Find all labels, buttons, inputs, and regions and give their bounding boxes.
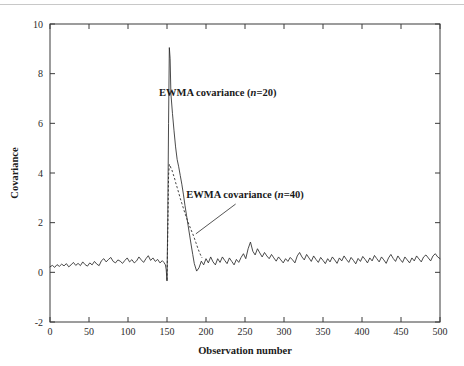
x-axis-title: Observation number — [198, 345, 292, 356]
series-line-n40 — [167, 164, 202, 279]
y-tick-label: 8 — [38, 68, 43, 79]
x-tick-label: 150 — [160, 326, 175, 337]
x-tick-label: 100 — [121, 326, 136, 337]
y-tick-label: 6 — [38, 118, 43, 129]
x-tick-label: 300 — [277, 326, 292, 337]
page-top-rule — [0, 4, 464, 5]
x-tick-label: 200 — [199, 326, 214, 337]
axes-group: 050100150200250300350400450500-20246810 — [33, 19, 448, 338]
y-tick-label: 10 — [33, 19, 43, 30]
x-tick-label: 450 — [394, 326, 409, 337]
annotation-leader-line — [196, 204, 236, 234]
annotation-suffix: =20) — [256, 87, 276, 99]
series-line-n20 — [50, 48, 440, 281]
x-tick-label: 400 — [355, 326, 370, 337]
annotation-suffix: =40) — [284, 189, 304, 201]
x-tick-label: 250 — [238, 326, 253, 337]
annot-n40: EWMA covariance (n=40) — [186, 189, 304, 201]
plot-frame — [50, 24, 440, 322]
figure-container: 050100150200250300350400450500-20246810 … — [0, 0, 464, 366]
x-tick-label: 0 — [48, 326, 53, 337]
y-tick-label: 0 — [38, 267, 43, 278]
y-tick-label: -2 — [35, 317, 43, 328]
y-axis-title: Covariance — [9, 147, 20, 199]
axis-labels-group: Observation numberCovariance — [9, 147, 292, 356]
y-tick-label: 4 — [38, 168, 43, 179]
annotation-prefix: EWMA covariance ( — [186, 189, 278, 201]
x-tick-label: 50 — [84, 326, 94, 337]
annotation-prefix: EWMA covariance ( — [159, 87, 251, 99]
x-tick-label: 350 — [316, 326, 331, 337]
annot-n20: EWMA covariance (n=20) — [159, 87, 277, 99]
series-group — [50, 48, 440, 281]
covariance-chart: 050100150200250300350400450500-20246810 … — [0, 0, 464, 366]
y-tick-label: 2 — [38, 217, 43, 228]
x-tick-label: 500 — [433, 326, 448, 337]
annotations-group: EWMA covariance (n=20)EWMA covariance (n… — [159, 87, 304, 234]
